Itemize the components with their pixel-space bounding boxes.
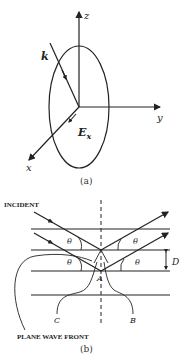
incident-label: INCIDENT — [4, 201, 39, 209]
z-axis-label: z — [83, 10, 90, 21]
figure-a: z y x k Ex (a) — [26, 10, 163, 186]
wavefront-right — [101, 250, 108, 263]
figure-b: θ θ θ θ D A C B INCIDENT PLANE WAVE FRON… — [4, 200, 179, 354]
k-label: k — [41, 50, 49, 63]
x-axis — [29, 107, 79, 160]
theta-label-1: θ — [67, 237, 72, 246]
wavefront-left — [94, 250, 101, 263]
spacing-d-label: D — [171, 257, 179, 267]
theta-label-2: θ — [133, 237, 138, 246]
wave-vector-k-arrowhead — [62, 70, 66, 79]
point-b-label: B — [129, 316, 136, 325]
leader-c — [57, 262, 97, 314]
caption-a: (a) — [80, 176, 92, 186]
ex-label: Ex — [77, 126, 91, 141]
field-ex-arrow — [69, 114, 76, 122]
point-a-label: A — [96, 274, 103, 283]
x-axis-label: x — [26, 162, 32, 173]
y-axis-label: y — [156, 112, 163, 123]
leader-b — [104, 262, 133, 314]
diagram-canvas: z y x k Ex (a) θ θ θ θ — [0, 0, 185, 363]
angle-arc-4 — [121, 259, 124, 271]
theta-label-4: θ — [135, 258, 140, 267]
theta-label-3: θ — [67, 258, 72, 267]
point-c-label: C — [54, 316, 60, 325]
plane-wave-front-label: PLANE WAVE FRONT — [17, 333, 89, 341]
caption-b: (b) — [80, 344, 93, 354]
